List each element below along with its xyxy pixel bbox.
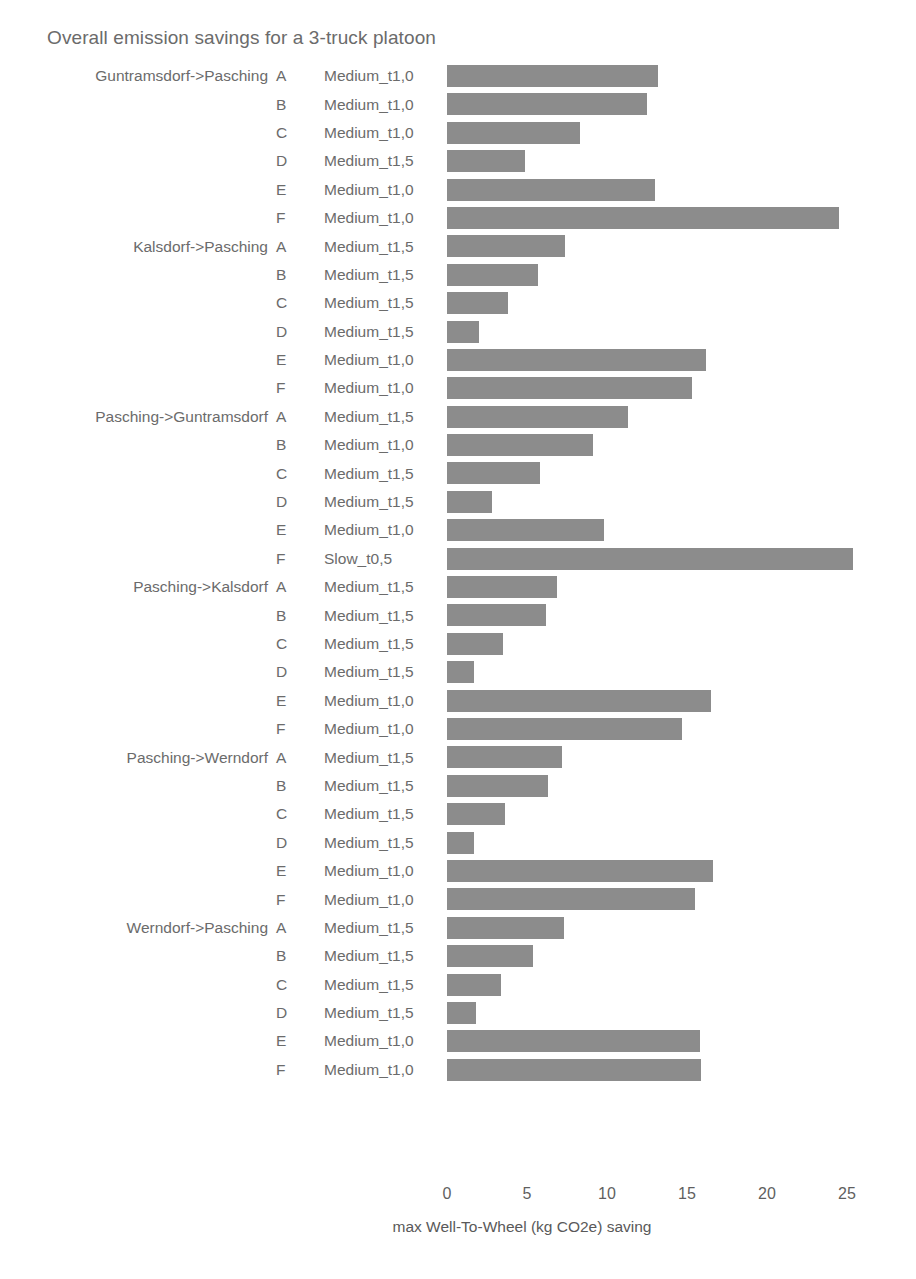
group-label: Guntramsdorf->Pasching [0, 67, 268, 85]
series-label: F [276, 891, 292, 909]
chart-row: FMedium_t1,0 [0, 715, 916, 743]
bar [447, 65, 658, 87]
mode-label: Medium_t1,5 [324, 663, 436, 681]
mode-label: Medium_t1,5 [324, 976, 436, 994]
chart-row: EMedium_t1,0 [0, 687, 916, 715]
chart-row: EMedium_t1,0 [0, 1027, 916, 1055]
bar [447, 917, 564, 939]
series-label: F [276, 550, 292, 568]
bar [447, 548, 853, 570]
mode-label: Medium_t1,0 [324, 521, 436, 539]
chart-row: EMedium_t1,0 [0, 516, 916, 544]
bar-track [447, 264, 907, 286]
chart-row: Pasching->GuntramsdorfAMedium_t1,5 [0, 403, 916, 431]
series-label: C [276, 294, 292, 312]
bar-track [447, 633, 907, 655]
bar-group: Guntramsdorf->PaschingAMedium_t1,0BMediu… [0, 62, 916, 232]
mode-label: Medium_t1,0 [324, 96, 436, 114]
bar-track [447, 604, 907, 626]
bar-group: Pasching->WerndorfAMedium_t1,5BMedium_t1… [0, 743, 916, 913]
bar-track [447, 179, 907, 201]
figure-caption-fragment [30, 1258, 35, 1273]
chart-row: BMedium_t1,0 [0, 431, 916, 459]
mode-label: Medium_t1,0 [324, 891, 436, 909]
bar [447, 1002, 476, 1024]
mode-label: Slow_t0,5 [324, 550, 436, 568]
mode-label: Medium_t1,5 [324, 493, 436, 511]
series-label: B [276, 947, 292, 965]
series-label: E [276, 862, 292, 880]
bar [447, 491, 492, 513]
series-label: A [276, 67, 292, 85]
bar-track [447, 860, 907, 882]
bar-track [447, 462, 907, 484]
series-label: C [276, 976, 292, 994]
x-tick-label: 20 [758, 1185, 776, 1203]
group-label: Pasching->Guntramsdorf [0, 408, 268, 426]
series-label: E [276, 521, 292, 539]
bar-track [447, 974, 907, 996]
bar [447, 292, 508, 314]
chart-row: DMedium_t1,5 [0, 147, 916, 175]
chart-row: DMedium_t1,5 [0, 999, 916, 1027]
bar-track [447, 576, 907, 598]
bar [447, 832, 474, 854]
bar-track [447, 377, 907, 399]
series-label: D [276, 834, 292, 852]
chart-row: CMedium_t1,5 [0, 800, 916, 828]
x-axis-ticks: 0510152025 [0, 1185, 916, 1215]
chart-row: BMedium_t1,5 [0, 261, 916, 289]
bar-track [447, 661, 907, 683]
bar [447, 264, 538, 286]
chart-row: Pasching->KalsdorfAMedium_t1,5 [0, 573, 916, 601]
bar-track [447, 803, 907, 825]
mode-label: Medium_t1,5 [324, 635, 436, 653]
chart-row: FMedium_t1,0 [0, 204, 916, 232]
chart-row: DMedium_t1,5 [0, 488, 916, 516]
mode-label: Medium_t1,0 [324, 181, 436, 199]
group-label: Pasching->Werndorf [0, 749, 268, 767]
bar-track [447, 1030, 907, 1052]
bar-chart-plot-area: Guntramsdorf->PaschingAMedium_t1,0BMediu… [0, 62, 916, 1084]
chart-row: CMedium_t1,5 [0, 289, 916, 317]
x-tick-label: 15 [678, 1185, 696, 1203]
bar-track [447, 491, 907, 513]
mode-label: Medium_t1,0 [324, 436, 436, 454]
bar [447, 661, 474, 683]
chart-row: DMedium_t1,5 [0, 658, 916, 686]
bar [447, 974, 501, 996]
x-tick-label: 0 [443, 1185, 452, 1203]
chart-row: CMedium_t1,0 [0, 119, 916, 147]
mode-label: Medium_t1,5 [324, 607, 436, 625]
series-label: A [276, 238, 292, 256]
chart-row: BMedium_t1,5 [0, 772, 916, 800]
mode-label: Medium_t1,0 [324, 209, 436, 227]
mode-label: Medium_t1,5 [324, 947, 436, 965]
series-label: A [276, 578, 292, 596]
mode-label: Medium_t1,5 [324, 749, 436, 767]
series-label: D [276, 1004, 292, 1022]
chart-row: FMedium_t1,0 [0, 1056, 916, 1084]
bar [447, 235, 565, 257]
x-axis-title-text: max Well-To-Wheel (kg CO2e) saving [393, 1218, 652, 1235]
x-axis-title: max Well-To-Wheel (kg CO2e) saving [0, 1218, 916, 1236]
series-label: F [276, 1061, 292, 1079]
series-label: A [276, 919, 292, 937]
bar [447, 775, 548, 797]
bar [447, 746, 562, 768]
mode-label: Medium_t1,5 [324, 465, 436, 483]
mode-label: Medium_t1,5 [324, 238, 436, 256]
bar [447, 150, 525, 172]
mode-label: Medium_t1,0 [324, 862, 436, 880]
bar-track [447, 349, 907, 371]
mode-label: Medium_t1,5 [324, 408, 436, 426]
bar-track [447, 945, 907, 967]
bar-track [447, 1059, 907, 1081]
series-label: B [276, 266, 292, 284]
bar [447, 377, 692, 399]
x-tick-label: 5 [523, 1185, 532, 1203]
bar [447, 1059, 701, 1081]
chart-row: Pasching->WerndorfAMedium_t1,5 [0, 743, 916, 771]
bar-track [447, 718, 907, 740]
group-label: Kalsdorf->Pasching [0, 238, 268, 256]
